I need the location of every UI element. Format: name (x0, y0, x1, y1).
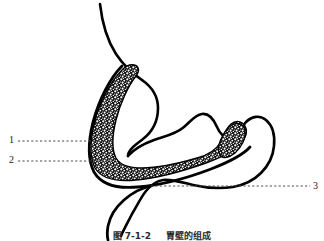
figure-caption-title: 胃壁的组成 (166, 231, 211, 241)
callout-label-1: 1 (9, 135, 14, 145)
pylorus-mucosa (219, 124, 246, 158)
figure-caption-number: 图 7-1-2 (113, 231, 151, 241)
figure-caption: 图 7-1-2 胃壁的组成 (0, 231, 324, 241)
callout-label-2: 2 (9, 155, 14, 165)
callout-label-3: 3 (313, 181, 318, 191)
stomach-diagram (0, 0, 324, 241)
figure-container: 1 2 3 图 7-1-2 胃壁的组成 (0, 0, 324, 241)
